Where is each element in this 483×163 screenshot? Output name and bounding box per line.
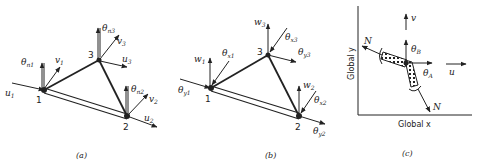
label-theta-b: θB	[411, 44, 421, 55]
bent-member	[380, 48, 422, 91]
label-u: u	[449, 67, 455, 77]
label-theta-x2: θx2	[314, 95, 327, 106]
caption-a: (a)	[76, 151, 87, 160]
label-w3: w3	[254, 17, 266, 28]
node-label-3-b: 3	[257, 47, 263, 57]
triangle-element-b	[211, 55, 299, 119]
label-theta-x1: θx1	[222, 48, 235, 59]
label-n-right: N	[432, 102, 442, 112]
node-label-1-a: 1	[36, 95, 42, 105]
label-n-left: N	[363, 36, 373, 46]
label-v2: v2	[149, 94, 158, 105]
caption-b: (b)	[265, 151, 276, 160]
finite-element-diagram: θn1 v1 u1 1 θn3 v3 u3 3 θn2 v2 u2 2 (a)	[0, 0, 483, 163]
label-u3: u3	[122, 54, 132, 65]
node-label-1-b: 1	[205, 94, 211, 104]
panel-c: Global x Global y v θB θA u N N (c)	[347, 6, 472, 158]
label-theta-a: θA	[423, 68, 433, 79]
label-theta-y2: θy2	[313, 126, 326, 138]
label-u1: u1	[5, 88, 15, 99]
node-label-2-a: 2	[123, 122, 129, 132]
label-theta-y1: θy1	[178, 85, 191, 97]
triangle-element-a	[44, 60, 127, 119]
node-label-3-a: 3	[88, 50, 94, 60]
node-label-2-b: 2	[295, 122, 301, 132]
label-theta-n3: θn3	[102, 23, 115, 34]
label-u2: u2	[144, 113, 154, 124]
label-v3: v3	[117, 36, 126, 47]
label-w1: w1	[194, 54, 206, 65]
panel-a: θn1 v1 u1 1 θn3 v3 u3 3 θn2 v2 u2 2 (a)	[5, 23, 158, 160]
axis-label-global-y: Global y	[347, 47, 356, 80]
label-theta-n1: θn1	[21, 57, 34, 68]
member-dof-arrows	[362, 14, 466, 112]
panel-b: w1 θx1 θy1 1 w3 θx3 θy3 3 w2 θx2 θy2 2 (…	[178, 17, 327, 160]
axis-label-global-x: Global x	[398, 120, 431, 129]
label-theta-y3: θy3	[298, 47, 311, 59]
label-w2: w2	[303, 80, 315, 91]
node-3-dof-b	[268, 24, 296, 62]
label-v: v	[411, 13, 416, 23]
label-theta-n2: θn2	[131, 84, 144, 95]
label-theta-x3: θx3	[285, 32, 298, 43]
caption-c: (c)	[402, 149, 413, 158]
label-v1: v1	[55, 55, 64, 66]
